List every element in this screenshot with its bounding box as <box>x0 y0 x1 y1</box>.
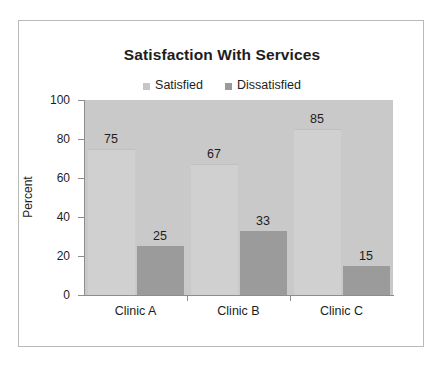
bar-dissatisfied-clinic-a <box>137 246 184 295</box>
y-tick-label: 60 <box>40 171 74 185</box>
y-tick-label: 20 <box>40 249 74 263</box>
x-axis-line <box>84 295 394 296</box>
bar-value-label: 85 <box>310 112 324 126</box>
x-axis-label: Clinic C <box>320 304 363 318</box>
legend-label-dissatisfied: Dissatisfied <box>237 78 301 92</box>
y-tick-label: 0 <box>40 288 74 302</box>
bar-satisfied-clinic-b <box>191 164 238 295</box>
chart-title: Satisfaction With Services <box>0 46 444 64</box>
bar-satisfied-clinic-c <box>294 129 341 295</box>
y-axis-line <box>84 100 85 296</box>
legend-item-satisfied: Satisfied <box>143 78 203 92</box>
x-axis-label: Clinic A <box>115 304 157 318</box>
y-axis-title: Percent <box>21 176 35 217</box>
y-tick-label: 40 <box>40 210 74 224</box>
bar-satisfied-clinic-a <box>88 149 135 295</box>
legend-label-satisfied: Satisfied <box>155 78 203 92</box>
bar-value-label: 75 <box>104 132 118 146</box>
chart-screenshot: Satisfaction With Services Satisfied Dis… <box>0 0 444 366</box>
x-tick-mark <box>187 295 188 301</box>
x-axis-label: Clinic B <box>217 304 259 318</box>
bar-value-label: 33 <box>256 214 270 228</box>
y-tick-label: 100 <box>40 93 74 107</box>
plot-area: 752567338515 <box>84 100 393 295</box>
bar-dissatisfied-clinic-b <box>240 231 287 295</box>
legend-item-dissatisfied: Dissatisfied <box>225 78 301 92</box>
y-tick-label: 80 <box>40 132 74 146</box>
chart-legend: Satisfied Dissatisfied <box>0 78 444 92</box>
x-tick-mark <box>290 295 291 301</box>
bar-value-label: 67 <box>207 147 221 161</box>
bar-dissatisfied-clinic-c <box>343 266 390 295</box>
bar-value-label: 15 <box>359 249 373 263</box>
bar-value-label: 25 <box>153 229 167 243</box>
legend-swatch-icon-dissatisfied <box>225 83 232 90</box>
legend-swatch-icon-satisfied <box>143 83 150 90</box>
